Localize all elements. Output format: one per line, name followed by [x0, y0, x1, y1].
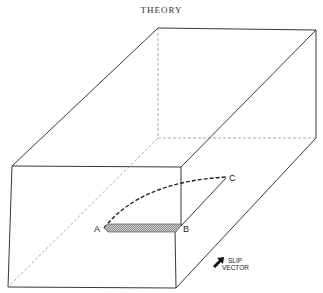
- label-b: B: [183, 224, 189, 234]
- back-top-edge: [158, 28, 316, 30]
- hatched-slip-surface: [104, 224, 182, 232]
- fault-block-diagram: A B C SLIP VECTOR: [0, 0, 323, 293]
- label-c: C: [229, 173, 236, 183]
- slip-vector-label-line1: SLIP: [228, 257, 242, 264]
- slip-path: [104, 177, 226, 228]
- slip-vector-label-line2: VECTOR: [222, 264, 249, 271]
- label-a: A: [94, 224, 100, 234]
